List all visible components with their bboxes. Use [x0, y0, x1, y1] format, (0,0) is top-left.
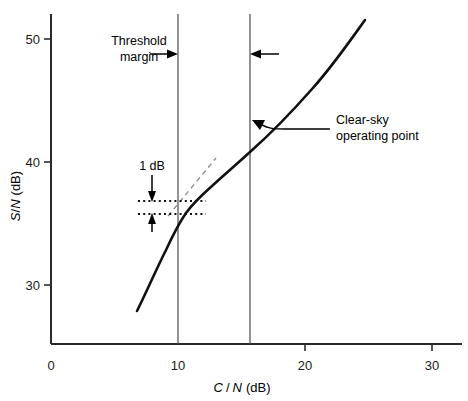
one-db-annotation: 1 dB: [138, 159, 206, 232]
one-db-label: 1 dB: [139, 159, 165, 173]
x-tick-label-0: 0: [47, 358, 54, 373]
y-axis-title-unit: (dB): [8, 171, 23, 196]
svg-text:S/N(dB): S/N(dB): [8, 171, 23, 221]
axis-group: [51, 14, 462, 344]
y-axis-title-s: S: [8, 212, 23, 221]
threshold-margin-annotation: Threshold margin: [111, 34, 279, 64]
x-tick-label-30: 30: [425, 358, 439, 373]
y-tick-marks: [44, 39, 51, 285]
y-axis-title: S/N(dB): [8, 171, 23, 221]
y-tick-labels: 50 40 30: [26, 32, 40, 293]
x-axis-title: C/N(dB): [214, 380, 271, 395]
threshold-margin-right-arrow-head: [250, 50, 261, 59]
threshold-margin-label-line1: Threshold: [111, 34, 167, 48]
transfer-curve: [137, 20, 365, 311]
x-axis-title-slash: /: [226, 380, 230, 395]
x-axis-title-unit: (dB): [246, 380, 271, 395]
x-tick-marks: [305, 344, 432, 351]
y-tick-label-30: 30: [26, 278, 40, 293]
x-tick-label-10: 10: [171, 358, 185, 373]
svg-text:C/N(dB): C/N(dB): [214, 380, 271, 395]
clear-sky-label-line2: operating point: [336, 129, 419, 143]
threshold-margin-label-line2: margin: [120, 50, 158, 64]
sn-vs-cn-plot: 50 40 30 0 10 20 30 C/N(dB) S/N(dB): [0, 0, 468, 401]
x-axis-title-c: C: [214, 380, 224, 395]
x-axis-title-n: N: [233, 380, 243, 395]
threshold-margin-left-arrow-head: [167, 50, 178, 59]
clear-sky-leader-line: [262, 125, 330, 129]
chart-figure: 50 40 30 0 10 20 30 C/N(dB) S/N(dB): [0, 0, 468, 401]
y-tick-label-50: 50: [26, 32, 40, 47]
clear-sky-label-line1: Clear-sky: [336, 113, 390, 127]
x-tick-labels: 0 10 20 30: [47, 358, 439, 373]
y-axis-title-n: N: [8, 199, 23, 209]
vertical-reference-lines: [178, 14, 250, 344]
y-tick-label-40: 40: [26, 155, 40, 170]
x-tick-label-20: 20: [298, 358, 312, 373]
